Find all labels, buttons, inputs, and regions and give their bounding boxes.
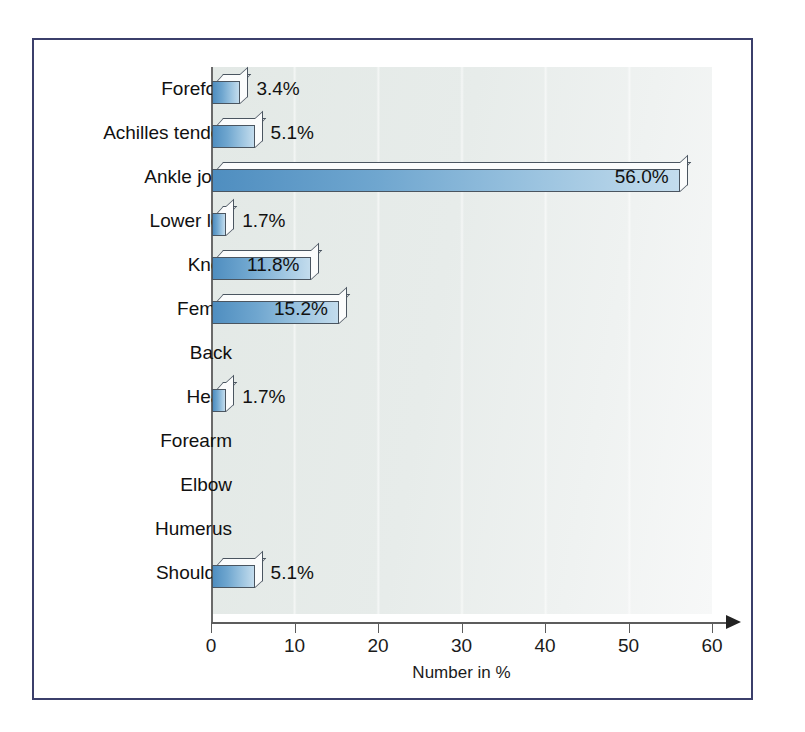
bar-value-label: 11.8% <box>228 254 300 276</box>
bar-forefoot <box>212 74 249 104</box>
category-label-humerus: Humerus <box>155 518 232 540</box>
bar-value-label: 5.1% <box>271 562 314 584</box>
x-tick-label-20: 20 <box>348 635 408 657</box>
x-axis-line <box>211 622 728 624</box>
bar-side-face <box>311 243 319 280</box>
bar-chart: Forefoot3.4%Achilles tendon5.1%Ankle joi… <box>34 40 755 702</box>
x-axis-title: Number in % <box>211 663 712 683</box>
bar-lower-leg <box>212 206 235 236</box>
bar-side-face <box>680 155 688 192</box>
bar-value-label: 3.4% <box>256 78 299 100</box>
bar-value-label: 15.2% <box>256 298 328 320</box>
category-label-back: Back <box>190 342 232 364</box>
bar-front-face <box>212 389 226 412</box>
bar-shoulder <box>212 558 264 588</box>
x-tick-label-50: 50 <box>599 635 659 657</box>
x-tick-label-40: 40 <box>515 635 575 657</box>
bar-side-face <box>240 67 248 104</box>
x-tick-0 <box>211 624 212 633</box>
bar-side-face <box>226 199 234 236</box>
bar-front-face <box>212 213 226 236</box>
bar-value-label: 1.7% <box>242 386 285 408</box>
category-label-forearm: Forearm <box>160 430 232 452</box>
bar-value-label: 1.7% <box>242 210 285 232</box>
bar-front-face <box>212 81 240 104</box>
bar-side-face <box>255 551 263 588</box>
x-axis-arrow-icon <box>726 615 741 629</box>
x-tick-30 <box>462 624 463 633</box>
bar-side-face <box>255 111 263 148</box>
bar-row: Forefoot3.4% <box>34 67 755 111</box>
bar-row: Knee11.8% <box>34 243 755 287</box>
bar-row: Ankle joint56.0% <box>34 155 755 199</box>
bar-value-label: 56.0% <box>597 166 669 188</box>
x-tick-label-10: 10 <box>265 635 325 657</box>
x-tick-50 <box>629 624 630 633</box>
x-tick-label-30: 30 <box>432 635 492 657</box>
bar-row: Shoulder5.1% <box>34 551 755 595</box>
bar-row: Forearm <box>34 419 755 463</box>
x-tick-60 <box>712 624 713 633</box>
x-tick-label-0: 0 <box>181 635 241 657</box>
bar-achilles-tendon <box>212 118 264 148</box>
bar-head <box>212 382 235 412</box>
bar-front-face <box>212 125 255 148</box>
figure-frame: Forefoot3.4%Achilles tendon5.1%Ankle joi… <box>32 38 753 700</box>
x-tick-label-60: 60 <box>682 635 742 657</box>
x-tick-40 <box>545 624 546 633</box>
bar-side-face <box>339 287 347 324</box>
bar-row: Back <box>34 331 755 375</box>
bar-row: Humerus <box>34 507 755 551</box>
bar-row: Achilles tendon5.1% <box>34 111 755 155</box>
x-tick-10 <box>295 624 296 633</box>
bar-row: Femur15.2% <box>34 287 755 331</box>
bar-row: Elbow <box>34 463 755 507</box>
bar-value-label: 5.1% <box>271 122 314 144</box>
bar-side-face <box>226 375 234 412</box>
bar-row: Head1.7% <box>34 375 755 419</box>
x-tick-20 <box>378 624 379 633</box>
bar-front-face <box>212 565 255 588</box>
bar-row: Lower leg1.7% <box>34 199 755 243</box>
category-label-elbow: Elbow <box>180 474 232 496</box>
